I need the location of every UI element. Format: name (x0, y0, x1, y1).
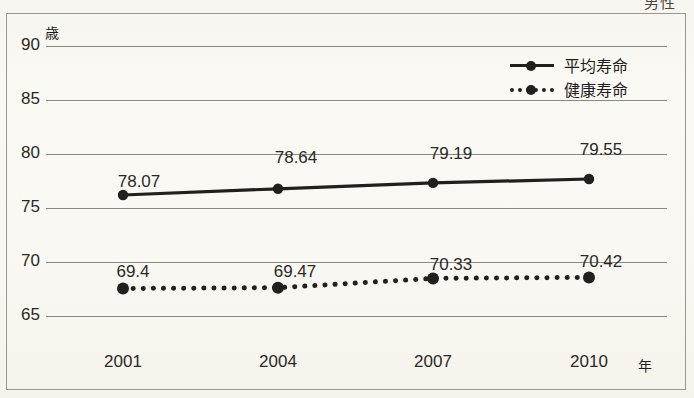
plot-area: 90 85 80 75 70 65 歳 年 2001 2004 2007 201… (0, 0, 694, 398)
series-marker-average (428, 178, 438, 188)
legend-item-average: 平均寿命 (508, 53, 668, 77)
chart-page: 男性 90 85 80 75 70 65 歳 年 2001 2004 2007 … (0, 0, 694, 398)
data-label-healthy-2007: 70.33 (411, 255, 491, 275)
series-marker-average (584, 174, 594, 184)
series-marker-healthy (272, 282, 284, 294)
data-label-average-2004: 78.64 (256, 148, 336, 168)
data-label-healthy-2004: 69.47 (255, 262, 335, 282)
series-marker-average (273, 184, 283, 194)
series-line-healthy (123, 277, 589, 288)
legend-item-healthy: 健康寿命 (508, 77, 668, 101)
legend-swatch-solid-line-icon (508, 56, 556, 74)
data-label-average-2010: 79.55 (561, 140, 641, 160)
series-marker-healthy (117, 283, 129, 295)
legend-swatch-dotted-line-icon (508, 80, 556, 98)
series-marker-healthy (583, 271, 595, 283)
chart-legend: 平均寿命 健康寿命 (508, 53, 668, 101)
series-line-average (123, 179, 589, 195)
data-label-healthy-2010: 70.42 (561, 252, 641, 272)
legend-label-healthy: 健康寿命 (564, 77, 628, 101)
legend-label-average: 平均寿命 (564, 53, 628, 77)
data-label-average-2001: 78.07 (99, 172, 179, 192)
data-label-healthy-2001: 69.4 (93, 262, 173, 282)
data-label-average-2007: 79.19 (411, 144, 491, 164)
